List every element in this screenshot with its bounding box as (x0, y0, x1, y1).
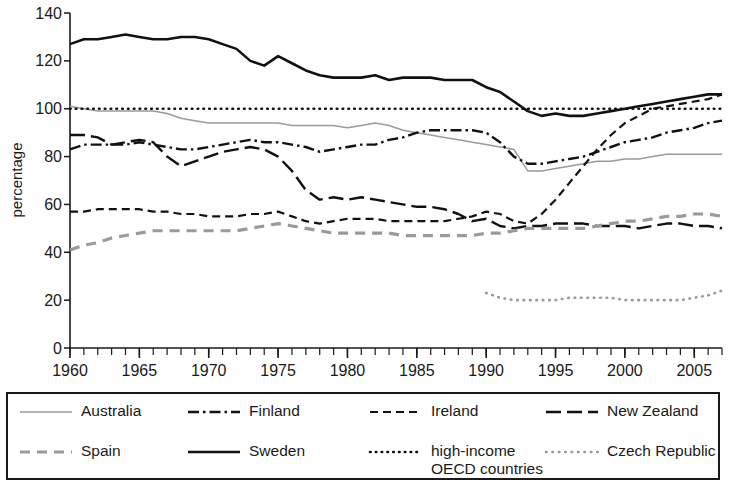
x-axis-tick-labels: 1960196519701975198019851990199520002005 (52, 362, 712, 379)
series-line-new-zealand (70, 135, 722, 228)
y-tick-label: 80 (44, 148, 62, 165)
legend-label: Czech Republic (607, 442, 716, 460)
x-tick-label: 1990 (468, 362, 504, 379)
legend-item[interactable]: New Zealand (544, 402, 728, 442)
y-tick-label: 140 (35, 5, 62, 22)
legend-grid: AustraliaFinlandIrelandNew ZealandSpainS… (8, 394, 718, 478)
legend-label: Australia (81, 402, 141, 420)
legend-swatch-solid-thin-gray (18, 403, 74, 421)
x-tick-label: 1995 (538, 362, 574, 379)
legend-item[interactable]: Czech Republic (544, 442, 728, 478)
legend-item[interactable]: Australia (18, 402, 186, 442)
y-axis-tick-marks (64, 13, 70, 348)
chart-plot-area: percentage 020406080100120140 1960196519… (0, 0, 729, 380)
y-tick-label: 60 (44, 196, 62, 213)
chart-legend: AustraliaFinlandIrelandNew ZealandSpainS… (6, 392, 720, 480)
line-chart: percentage 020406080100120140 1960196519… (0, 0, 729, 380)
y-axis-label: percentage (8, 142, 25, 217)
x-tick-label: 1960 (52, 362, 88, 379)
legend-swatch-dashed-short (368, 403, 424, 421)
legend-item[interactable]: Spain (18, 442, 186, 478)
legend-label: Ireland (431, 402, 478, 420)
x-axis-tick-marks (70, 348, 722, 358)
legend-swatch-dotted-black (368, 443, 424, 461)
x-tick-label: 2005 (676, 362, 712, 379)
x-tick-label: 1985 (399, 362, 435, 379)
legend-item[interactable]: Finland (186, 402, 368, 442)
legend-swatch-dash-dot (186, 403, 242, 421)
legend-item[interactable]: high-income OECD countries (368, 442, 544, 478)
x-tick-label: 2000 (607, 362, 643, 379)
y-tick-label: 100 (35, 100, 62, 117)
y-tick-label: 120 (35, 52, 62, 69)
x-tick-label: 1975 (260, 362, 296, 379)
series-line-czech-republic (486, 291, 722, 301)
legend-swatch-dashed-long (544, 403, 600, 421)
y-tick-label: 20 (44, 292, 62, 309)
y-tick-label: 0 (53, 340, 62, 357)
y-tick-label: 40 (44, 244, 62, 261)
legend-item[interactable]: Sweden (186, 442, 368, 478)
legend-label: high-income OECD countries (431, 442, 543, 478)
legend-label: Sweden (249, 442, 305, 460)
legend-swatch-dotted-gray (544, 443, 600, 461)
chart-series-layer (70, 35, 722, 301)
x-tick-label: 1980 (330, 362, 366, 379)
legend-label: Spain (81, 442, 121, 460)
series-line-sweden (70, 35, 722, 116)
figure: percentage 020406080100120140 1960196519… (0, 0, 729, 489)
legend-swatch-dashed-gray-thick (18, 443, 74, 461)
legend-swatch-solid-thick (186, 443, 242, 461)
x-tick-label: 1965 (122, 362, 158, 379)
x-tick-label: 1970 (191, 362, 227, 379)
legend-item[interactable]: Ireland (368, 402, 544, 442)
legend-label: New Zealand (607, 402, 698, 420)
y-axis-tick-labels: 020406080100120140 (35, 5, 62, 357)
series-line-spain (70, 214, 722, 250)
legend-label: Finland (249, 402, 300, 420)
